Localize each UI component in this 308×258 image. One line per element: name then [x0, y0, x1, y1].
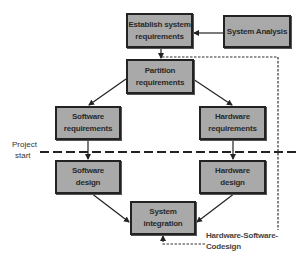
- node-label: Establish system: [128, 19, 190, 31]
- node-label: Hardware: [215, 165, 250, 177]
- node-label: requirements: [136, 77, 184, 89]
- node-software-design[interactable]: Softwaredesign: [55, 160, 121, 194]
- node-software-requirements[interactable]: Softwarerequirements: [55, 106, 121, 140]
- node-system-integration[interactable]: Systemintegration: [130, 201, 196, 235]
- node-hardware-design[interactable]: Hardwaredesign: [199, 160, 266, 194]
- node-label: integration: [143, 218, 182, 230]
- codesign-flow-diagram: Establish systemrequirements System Anal…: [0, 0, 308, 258]
- node-label: System Analysis: [227, 26, 287, 38]
- project-start-line2: start: [12, 150, 37, 161]
- arrow-hw-design-to-integration: [197, 193, 235, 222]
- node-system-analysis[interactable]: System Analysis: [223, 15, 291, 48]
- arrow-partition-to-sw-req: [89, 79, 126, 105]
- codesign-label: Hardware-Software-Codesign: [205, 230, 308, 252]
- node-label: requirements: [128, 31, 190, 43]
- node-label: Software: [72, 165, 104, 177]
- node-label: requirements: [64, 123, 112, 135]
- node-label: requirements: [208, 123, 256, 135]
- node-establish-system-requirements[interactable]: Establish systemrequirements: [126, 13, 193, 48]
- node-label: design: [215, 177, 250, 189]
- project-start-line1: Project: [12, 139, 37, 150]
- node-label: System: [143, 206, 182, 218]
- node-label: Partition: [136, 65, 184, 77]
- node-label: Hardware: [208, 111, 256, 123]
- node-partition-requirements[interactable]: Partitionrequirements: [126, 59, 194, 94]
- arrow-sw-design-to-integration: [91, 193, 129, 222]
- node-label: Software: [64, 111, 112, 123]
- node-hardware-requirements[interactable]: Hardwarerequirements: [199, 106, 266, 140]
- project-start-label: Project start: [12, 139, 37, 161]
- node-label: design: [72, 177, 104, 189]
- arrow-partition-to-hw-req: [193, 79, 232, 105]
